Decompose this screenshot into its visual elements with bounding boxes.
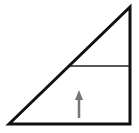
triangle-diagram (0, 0, 139, 133)
up-arrow-icon (75, 90, 83, 118)
arrow-head (75, 90, 83, 100)
diagram-canvas (0, 0, 139, 133)
